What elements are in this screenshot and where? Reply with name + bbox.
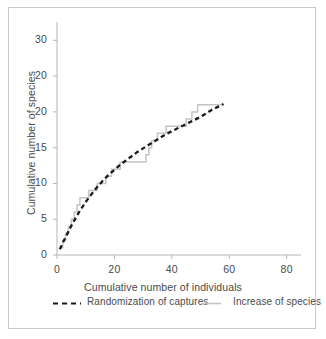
legend-label-randomization: Randomization of captures <box>87 296 208 307</box>
y-tick-label: 0 <box>21 248 47 260</box>
y-axis-title: Cumulative number of species <box>25 70 37 214</box>
figure-frame: 051015202030 020406080 Cumulative number… <box>8 7 316 329</box>
x-tick-label: 0 <box>42 263 72 275</box>
series-randomization-of-captures <box>60 104 224 249</box>
x-tick-label: 40 <box>157 263 187 275</box>
x-tick-label: 80 <box>272 263 302 275</box>
solid-line-swatch <box>199 302 227 304</box>
dashed-line-swatch <box>53 302 81 304</box>
axes-group <box>53 22 301 259</box>
series-increase-of-species <box>60 105 224 248</box>
x-tick-label: 60 <box>214 263 244 275</box>
x-tick-label: 20 <box>99 263 129 275</box>
x-axis-title: Cumulative number of individuals <box>9 281 317 293</box>
chart-legend: Randomization of captures Increase of sp… <box>9 296 317 316</box>
data-series-group <box>60 104 224 249</box>
y-tick-label: 30 <box>21 33 47 45</box>
legend-label-increase: Increase of species <box>233 296 321 307</box>
plot-area: 051015202030 020406080 Cumulative number… <box>9 8 317 330</box>
